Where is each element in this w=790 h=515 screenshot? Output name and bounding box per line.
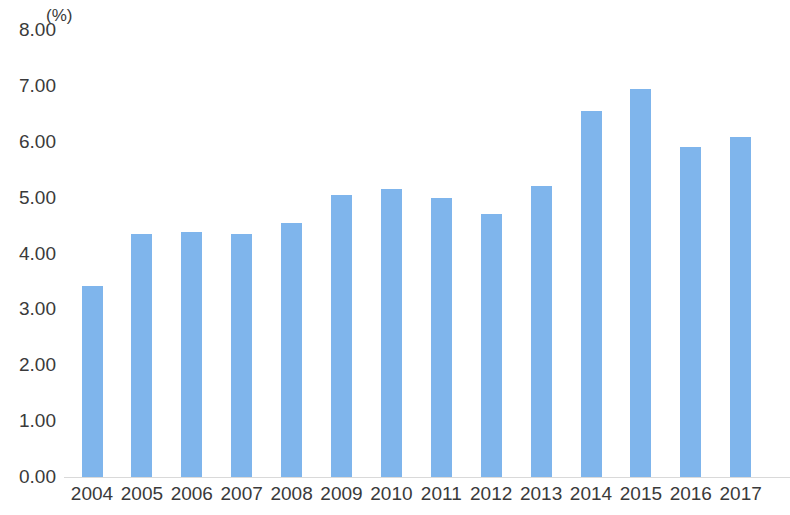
x-axis-tick-label: 2008 xyxy=(270,483,312,505)
y-axis-tick-label: 4.00 xyxy=(19,243,56,265)
bar xyxy=(531,186,552,477)
y-axis-tick-label: 0.00 xyxy=(19,466,56,488)
x-axis-tick-label: 2013 xyxy=(520,483,562,505)
x-axis-tick-label: 2005 xyxy=(121,483,163,505)
bar xyxy=(331,195,352,477)
x-axis-tick-label: 2006 xyxy=(171,483,213,505)
y-axis-tick-label: 5.00 xyxy=(19,187,56,209)
bar xyxy=(381,189,402,477)
x-axis-tick-label: 2014 xyxy=(570,483,612,505)
x-axis-tick-label: 2007 xyxy=(221,483,263,505)
x-axis-tick-label: 2004 xyxy=(71,483,113,505)
bar xyxy=(431,198,452,477)
x-axis-tick-label: 2017 xyxy=(720,483,762,505)
x-axis-tick-label: 2010 xyxy=(370,483,412,505)
x-axis-tick-label: 2015 xyxy=(620,483,662,505)
bar-chart: (%) 8.007.006.005.004.003.002.001.000.00… xyxy=(0,0,790,515)
bar xyxy=(630,89,651,477)
y-axis-tick-label: 2.00 xyxy=(19,354,56,376)
x-axis-tick-label: 2011 xyxy=(421,483,462,505)
y-axis-tick-label: 6.00 xyxy=(19,131,56,153)
bar xyxy=(82,286,103,477)
y-axis: 8.007.006.005.004.003.002.001.000.00 xyxy=(0,0,64,515)
y-axis-tick-label: 3.00 xyxy=(19,298,56,320)
y-axis-tick-label: 1.00 xyxy=(19,410,56,432)
x-axis-tick-label: 2016 xyxy=(670,483,712,505)
bars-layer xyxy=(64,0,790,515)
bar xyxy=(181,232,202,477)
bar xyxy=(581,111,602,477)
bar xyxy=(680,147,701,477)
x-axis-tick-label: 2009 xyxy=(320,483,362,505)
y-axis-tick-label: 7.00 xyxy=(19,75,56,97)
x-axis-tick-label: 2012 xyxy=(470,483,512,505)
bar xyxy=(231,234,252,477)
bar xyxy=(730,137,751,477)
bar xyxy=(281,223,302,477)
y-axis-tick-label: 8.00 xyxy=(19,19,56,41)
plot-area xyxy=(64,0,790,515)
bar xyxy=(481,214,502,477)
bar xyxy=(131,234,152,477)
x-axis: 2004200520062007200820092010201120122013… xyxy=(64,483,790,515)
